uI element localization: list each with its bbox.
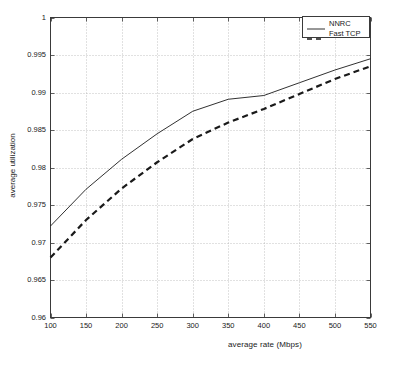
x-tick-label: 250 bbox=[142, 321, 172, 330]
x-tick-label: 400 bbox=[249, 321, 279, 330]
chart-legend: NNRC Fast TCP bbox=[302, 16, 370, 38]
y-tick-label: 0.98 bbox=[18, 163, 46, 172]
x-tick-label: 100 bbox=[36, 321, 66, 330]
y-tick-label: 0.965 bbox=[18, 275, 46, 284]
x-tick-label: 150 bbox=[71, 321, 101, 330]
legend-line-sample-solid bbox=[306, 19, 326, 27]
y-tick-label: 1 bbox=[18, 13, 46, 22]
grid-layer bbox=[51, 18, 371, 318]
x-tick-label: 550 bbox=[356, 321, 386, 330]
legend-entry-fast-tcp: Fast TCP bbox=[306, 28, 361, 38]
y-tick-label: 0.97 bbox=[18, 238, 46, 247]
plot-frame bbox=[51, 18, 371, 318]
y-tick-label: 0.995 bbox=[18, 50, 46, 59]
y-axis-label: average utilization bbox=[8, 133, 17, 197]
x-tick-label: 450 bbox=[284, 321, 314, 330]
series-line-fast-tcp bbox=[51, 66, 371, 257]
x-tick-label: 350 bbox=[213, 321, 243, 330]
x-tick-label: 500 bbox=[320, 321, 350, 330]
legend-entry-nnrc: NNRC bbox=[306, 18, 351, 28]
y-tick-label: 0.975 bbox=[18, 200, 46, 209]
plot-canvas bbox=[0, 0, 396, 368]
legend-label-nnrc: NNRC bbox=[329, 19, 351, 28]
legend-line-sample-dashed bbox=[306, 29, 326, 37]
x-tick-label: 200 bbox=[107, 321, 137, 330]
tick-marks-layer bbox=[51, 18, 372, 319]
x-axis-label: average rate (Mbps) bbox=[228, 340, 302, 349]
data-series-layer bbox=[51, 59, 371, 258]
y-tick-label: 0.99 bbox=[18, 88, 46, 97]
chart-figure: average utilization average rate (Mbps) … bbox=[0, 0, 396, 368]
y-tick-label: 0.985 bbox=[18, 125, 46, 134]
legend-label-fast-tcp: Fast TCP bbox=[329, 29, 361, 38]
series-line-nnrc bbox=[51, 59, 371, 226]
x-tick-label: 300 bbox=[178, 321, 208, 330]
